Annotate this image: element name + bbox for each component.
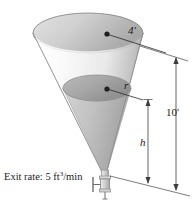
- top-radius-label: 4': [128, 25, 136, 36]
- liquid-surface: [63, 75, 131, 101]
- inner-radius-label: r: [124, 80, 128, 91]
- cone-tank: [33, 13, 143, 178]
- cone-tank-diagram: Exit rate: 5 ft3/min 4' r 10' h: [0, 0, 196, 206]
- dimension-total-height: [173, 57, 178, 191]
- dimension-liquid-arrow-top: [146, 99, 151, 106]
- extension-line-apex: [110, 176, 190, 196]
- exit-rate-suffix: /min: [63, 171, 82, 182]
- valve-flange-top: [100, 176, 111, 179]
- exit-rate-label: Exit rate: 5 ft3/min: [4, 172, 82, 183]
- center-dot-top: [104, 31, 109, 36]
- valve-flange-bottom: [100, 189, 111, 192]
- valve-body: [101, 179, 110, 190]
- drain-valve: [93, 170, 111, 199]
- exit-rate-prefix: Exit rate: 5 ft: [4, 171, 60, 182]
- liquid-height-label: h: [140, 137, 146, 148]
- center-dot-inner: [104, 86, 109, 91]
- total-height-label: 10': [166, 107, 179, 118]
- liquid-body: [63, 88, 131, 178]
- dimension-total-arrow-bottom: [173, 184, 178, 191]
- dimension-liquid-arrow-bottom: [146, 177, 151, 184]
- extension-line-rim: [140, 46, 188, 61]
